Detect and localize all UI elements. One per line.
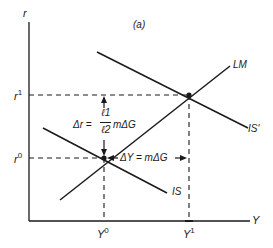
curve-label-IS-prime: IS' (248, 124, 259, 134)
delta-Y-label: ΔY = mΔG (120, 153, 167, 163)
curve-label-IS: IS (172, 187, 181, 197)
delta-Y-arrowhead-right (180, 155, 187, 161)
delta-r-lhs: Δr = (73, 120, 92, 130)
delta-r-rhs: mΔG (113, 120, 136, 130)
label-Y0: Y0 (97, 227, 109, 240)
islm-diagram (0, 0, 273, 248)
lm-curve (60, 66, 230, 200)
label-r1: r1 (14, 89, 22, 102)
equilibrium-point-1 (186, 92, 191, 97)
equilibrium-point-0 (101, 155, 106, 160)
label-r0: r0 (14, 152, 22, 165)
label-Y0-sup: 0 (104, 226, 108, 235)
label-Y1-sup: 1 (190, 226, 194, 235)
panel-label: (a) (133, 20, 145, 30)
label-r0-sup: 0 (18, 151, 22, 160)
delta-r-fraction-denominator: ℓ2 (99, 125, 113, 135)
delta-r-fraction-numerator: ℓ1 (99, 108, 113, 118)
label-r1-sup: 1 (18, 88, 22, 97)
curve-label-LM: LM (233, 60, 247, 70)
delta-r-arrowhead-down (101, 149, 107, 156)
delta-r-arrowhead-up (101, 96, 107, 103)
label-Y1: Y1 (183, 227, 195, 240)
axis-label-r: r (23, 8, 27, 19)
axis-label-Y: Y (252, 215, 259, 226)
is-prime-curve (97, 52, 248, 128)
delta-r-fraction-bar (100, 122, 111, 123)
